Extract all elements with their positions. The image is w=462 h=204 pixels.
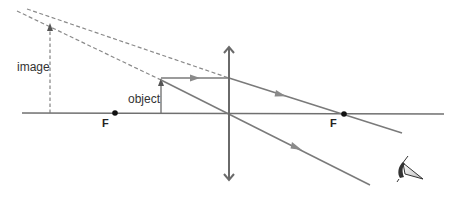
ray-center <box>161 80 370 185</box>
ray-diagram: image object F F <box>0 0 462 204</box>
focal-point-left <box>112 110 118 116</box>
principal-axis <box>22 113 444 114</box>
focal-point-right <box>341 111 347 117</box>
ray-parallel-refracted <box>229 78 402 133</box>
image-arrow-head-icon <box>47 23 53 31</box>
virtual-ray-parallel <box>27 9 229 78</box>
ray-arrow-icon <box>190 75 200 82</box>
object-label: object <box>128 92 161 106</box>
image-label: image <box>17 60 50 74</box>
ray-arrow-icon <box>291 142 303 150</box>
ray-arrow-icon <box>275 90 287 97</box>
focal-label-left: F <box>102 117 109 129</box>
focal-label-right: F <box>330 117 337 129</box>
eye-icon <box>397 156 423 182</box>
